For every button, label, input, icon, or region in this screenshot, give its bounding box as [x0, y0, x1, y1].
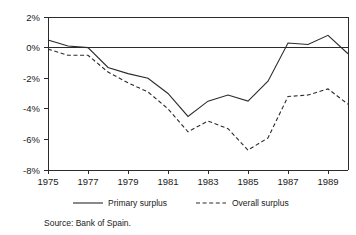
y-axis-tick-labels: 2%0%-2%-4%-6%-8% [23, 12, 40, 176]
series-group [48, 35, 348, 150]
plot-frame [48, 17, 348, 170]
x-tick-label: 1983 [197, 176, 218, 187]
chart-legend: Primary surplus Overall surplus [73, 198, 289, 208]
y-tick-label: 2% [26, 12, 40, 23]
x-tick-label: 1975 [37, 176, 58, 187]
source-note: Source: Bank of Spain. [44, 218, 131, 228]
y-tick-label: -8% [23, 165, 40, 176]
line-chart: 2%0%-2%-4%-6%-8% 19751977197919811983198… [0, 0, 356, 235]
y-tick-label: -4% [23, 103, 40, 114]
series-overall-surplus [48, 49, 348, 150]
x-tick-label: 1979 [117, 176, 138, 187]
y-axis-ticks [44, 17, 48, 170]
y-tick-label: 0% [26, 42, 40, 53]
chart-figure: 2%0%-2%-4%-6%-8% 19751977197919811983198… [0, 0, 356, 235]
x-tick-label: 1981 [157, 176, 178, 187]
x-axis-tick-labels: 19751977197919811983198519871989 [37, 176, 338, 187]
y-tick-label: -6% [23, 134, 40, 145]
x-tick-label: 1989 [317, 176, 338, 187]
x-axis-ticks [48, 170, 328, 174]
x-tick-label: 1987 [277, 176, 298, 187]
y-tick-label: -2% [23, 73, 40, 84]
legend-label-primary-surplus: Primary surplus [108, 198, 167, 208]
x-tick-label: 1977 [77, 176, 98, 187]
x-tick-label: 1985 [237, 176, 258, 187]
legend-label-overall-surplus: Overall surplus [232, 198, 289, 208]
